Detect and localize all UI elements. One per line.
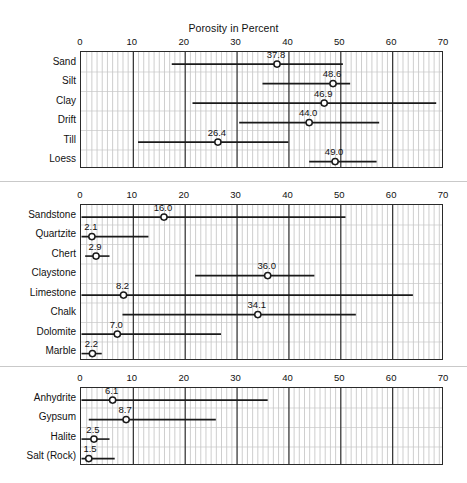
- row-label-quartzite: Quartzite: [35, 228, 76, 239]
- range-bar: [89, 416, 216, 422]
- row-label-till: Till: [64, 133, 76, 144]
- row-label-sandstone: Sandstone: [28, 208, 76, 219]
- range-bar: [82, 436, 110, 442]
- x-axis-tick-label: 30: [230, 36, 241, 47]
- row-label-chalk: Chalk: [50, 306, 76, 317]
- plot-area-unconsolidated-sediments: [80, 51, 443, 168]
- range-bar: [82, 455, 115, 461]
- range-bar: [122, 311, 355, 317]
- row-labels-evaporites: AnhydriteGypsumHaliteSalt (Rock): [0, 387, 76, 465]
- x-axis-tick-label: 0: [77, 36, 82, 47]
- row-label-gypsum: Gypsum: [39, 411, 76, 422]
- value-label-drift: 44.0: [299, 108, 318, 118]
- x-axis-tick-label: 70: [438, 36, 449, 47]
- x-axis-tick-label: 0: [77, 189, 82, 200]
- value-label-silt: 48.6: [323, 69, 342, 79]
- value-label-anhydrite: 6.1: [105, 385, 118, 395]
- row-label-sand: Sand: [53, 55, 76, 66]
- range-bar: [263, 80, 351, 86]
- range-bar: [192, 100, 436, 106]
- row-label-anhydrite: Anhydrite: [34, 391, 76, 402]
- x-axis-tick-label: 60: [386, 189, 397, 200]
- x-axis-tick-label: 10: [127, 372, 138, 383]
- x-axis-evaporites: 010203040506070: [0, 372, 467, 386]
- row-labels-unconsolidated-sediments: SandSiltClayDriftTillLoess: [0, 51, 76, 168]
- x-axis-tick-label: 30: [230, 189, 241, 200]
- value-label-gypsum: 8.7: [119, 405, 132, 415]
- x-axis-tick-label: 40: [282, 36, 293, 47]
- row-label-claystone: Claystone: [32, 267, 76, 278]
- x-axis-tick-label: 20: [178, 189, 189, 200]
- x-axis-tick-label: 0: [77, 372, 82, 383]
- x-axis-tick-label: 50: [334, 36, 345, 47]
- value-label-till: 26.4: [208, 127, 227, 137]
- range-bar: [138, 139, 288, 145]
- row-label-marble: Marble: [45, 345, 76, 356]
- value-label-halite: 2.5: [86, 424, 99, 434]
- row-label-chert: Chert: [52, 247, 76, 258]
- x-axis-tick-label: 10: [127, 189, 138, 200]
- value-label-sand: 37.8: [267, 49, 286, 59]
- x-axis-tick-label: 70: [438, 372, 449, 383]
- range-bar: [172, 61, 343, 67]
- row-label-salt-rock: Salt (Rock): [27, 450, 76, 461]
- value-label-marble: 2.2: [85, 339, 98, 349]
- row-label-silt: Silt: [62, 75, 76, 86]
- row-label-loess: Loess: [49, 153, 76, 164]
- row-label-drift: Drift: [58, 114, 76, 125]
- x-axis-tick-label: 10: [127, 36, 138, 47]
- plot-area-sedimentary-rocks: [80, 204, 443, 360]
- x-axis-sedimentary-rocks: 010203040506070: [0, 189, 467, 203]
- porosity-chart-figure: Porosity in Percent 010203040506070SandS…: [0, 0, 467, 483]
- value-label-claystone: 36.0: [257, 261, 276, 271]
- x-axis-unconsolidated-sediments: 010203040506070: [0, 36, 467, 50]
- x-axis-tick-label: 60: [386, 36, 397, 47]
- x-axis-tick-label: 50: [334, 189, 345, 200]
- grid-and-ranges-sedimentary-rocks: [81, 205, 443, 360]
- chart-title: Porosity in Percent: [0, 22, 467, 34]
- row-label-limestone: Limestone: [30, 286, 76, 297]
- value-label-sandstone: 16.0: [154, 202, 173, 212]
- range-bar: [82, 350, 102, 356]
- x-axis-tick-label: 20: [178, 372, 189, 383]
- grid-and-ranges-unconsolidated-sediments: [81, 52, 443, 168]
- value-label-clay: 46.9: [314, 88, 333, 98]
- range-bar: [85, 253, 109, 259]
- panel-separator-2: [0, 366, 467, 367]
- range-bar: [195, 272, 314, 278]
- x-axis-tick-label: 30: [230, 372, 241, 383]
- plot-area-evaporites: [80, 387, 443, 465]
- value-label-chert: 2.9: [88, 241, 101, 251]
- value-label-limestone: 8.2: [116, 280, 129, 290]
- x-axis-tick-label: 70: [438, 189, 449, 200]
- row-label-clay: Clay: [56, 94, 76, 105]
- value-label-quartzite: 2.1: [84, 222, 97, 232]
- x-axis-tick-label: 20: [178, 36, 189, 47]
- row-labels-sedimentary-rocks: SandstoneQuartziteChertClaystoneLimeston…: [0, 204, 76, 360]
- row-label-dolomite: Dolomite: [37, 325, 76, 336]
- x-axis-tick-label: 50: [334, 372, 345, 383]
- x-axis-tick-label: 60: [386, 372, 397, 383]
- panel-separator-1: [0, 181, 467, 182]
- range-bar: [239, 119, 379, 125]
- x-axis-tick-label: 40: [282, 372, 293, 383]
- value-label-loess: 49.0: [325, 147, 344, 157]
- value-label-chalk: 34.1: [248, 300, 267, 310]
- grid-and-ranges-evaporites: [81, 388, 443, 465]
- row-label-halite: Halite: [50, 430, 76, 441]
- x-axis-tick-label: 40: [282, 189, 293, 200]
- value-label-salt-rock: 1.5: [83, 444, 96, 454]
- range-bar: [82, 214, 346, 220]
- value-label-dolomite: 7.0: [110, 319, 123, 329]
